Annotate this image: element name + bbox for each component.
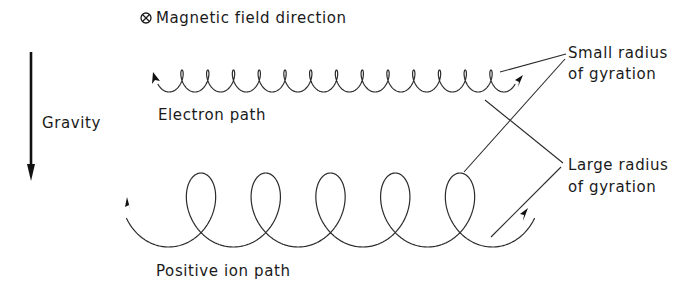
- ion-path-curve: [126, 173, 534, 247]
- ion-path-label: Positive ion path: [156, 264, 291, 279]
- gyration-diagram: Magnetic field direction Gravity Electro…: [0, 0, 697, 288]
- ion-end-arrow-icon: [520, 208, 528, 221]
- large-radius-label-line1: Large radius: [568, 158, 669, 173]
- ion-start-arrow-icon: [125, 197, 131, 212]
- small-radius-label-line1: Small radius: [568, 46, 668, 61]
- electron-start-arrow-icon: [152, 72, 160, 84]
- small-radius-label-line2: of gyration: [568, 67, 656, 82]
- large-radius-leader-electron: [485, 100, 563, 163]
- large-radius-leader-ion: [491, 167, 561, 237]
- magnetic-field-label: Magnetic field direction: [156, 11, 347, 26]
- small-radius-leader-ion: [464, 59, 565, 172]
- magnetic-field-into-page-icon: [141, 13, 151, 23]
- gravity-label: Gravity: [42, 116, 101, 131]
- electron-path-curve: [158, 70, 515, 92]
- electron-end-arrow-icon: [515, 75, 523, 87]
- gravity-arrow-icon: [27, 52, 35, 181]
- electron-path-label: Electron path: [158, 108, 266, 123]
- large-radius-label-line2: of gyration: [568, 180, 656, 195]
